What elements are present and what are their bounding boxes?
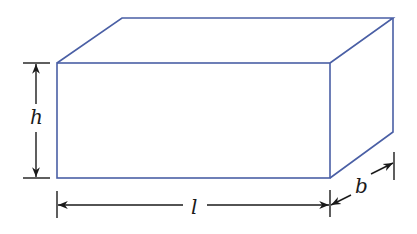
length-label: l [191, 195, 197, 219]
right-face-edges [330, 18, 393, 178]
height-label: h [30, 105, 43, 129]
breadth-arrow-inward [331, 195, 351, 205]
breadth-arrow-outward [371, 163, 393, 174]
rectangular-prism-diagram: h l b [0, 0, 417, 234]
top-face-edges [57, 18, 393, 63]
prism [57, 18, 393, 178]
front-face [57, 63, 330, 178]
breadth-label: b [355, 174, 368, 198]
